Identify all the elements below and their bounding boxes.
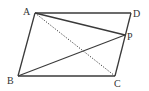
side-CD: [115, 13, 131, 76]
label-C: C: [114, 78, 121, 89]
side-AB: [18, 13, 35, 76]
label-P: P: [127, 31, 133, 42]
label-A: A: [23, 6, 31, 17]
parallelogram-diagram: A D P B C: [0, 0, 149, 91]
label-D: D: [133, 8, 140, 19]
label-B: B: [7, 75, 14, 86]
segment-BP: [18, 35, 125, 76]
